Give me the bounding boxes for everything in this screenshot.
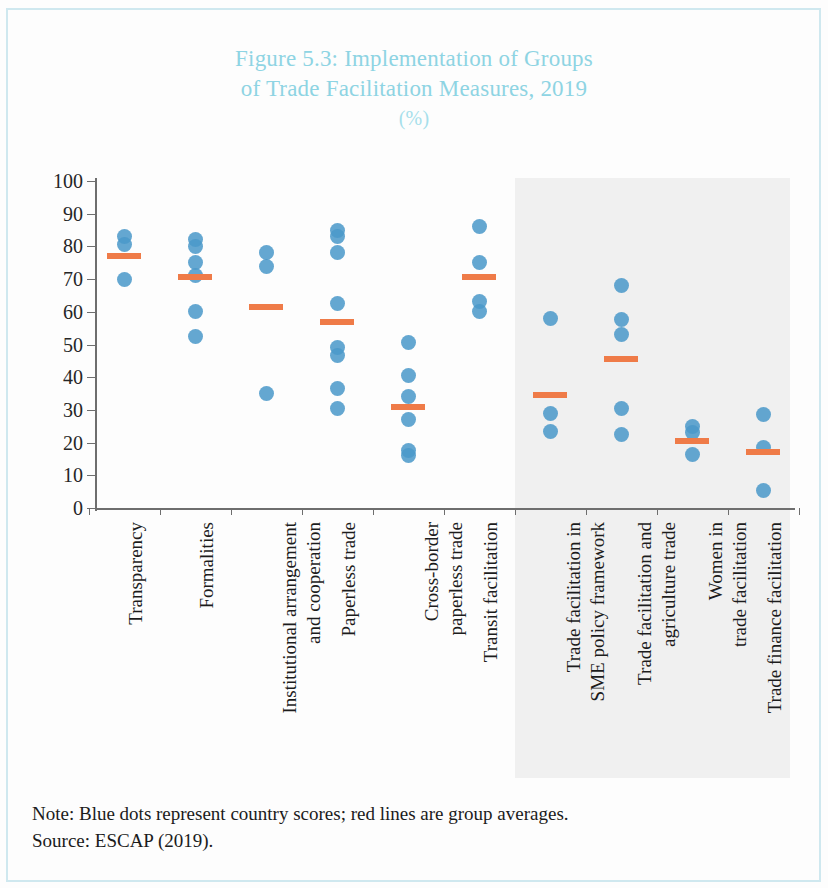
y-tick-40 (87, 377, 95, 378)
data-point (330, 401, 345, 416)
y-axis-label-70: 70 (63, 268, 83, 291)
x-axis-label-line1: Trade facilitation and (634, 522, 655, 685)
data-point (330, 381, 345, 396)
data-point (685, 447, 700, 462)
data-point (472, 304, 487, 319)
data-point (543, 406, 558, 421)
x-tick-separator (586, 508, 587, 515)
x-tick-separator (444, 508, 445, 515)
data-point (472, 255, 487, 270)
y-axis-label-50: 50 (63, 333, 83, 356)
x-axis-label-line1: Trade finance facilitation (764, 522, 785, 713)
data-point (330, 229, 345, 244)
x-axis-label-line1: Women in (705, 522, 726, 600)
y-axis-label-40: 40 (63, 366, 83, 389)
y-axis-label-60: 60 (63, 300, 83, 323)
y-tick-30 (87, 410, 95, 411)
figure-source: Source: ESCAP (2019). (32, 827, 569, 854)
data-point (614, 327, 629, 342)
x-tick-separator (728, 508, 729, 515)
x-axis-label-line2: SME policy framework (586, 522, 610, 822)
figure-title-line1: Figure 5.3: Implementation of Groups (235, 46, 593, 71)
group-average-line (178, 274, 212, 280)
group-average-line (391, 404, 425, 410)
x-axis-label-line1: Formalities (196, 522, 217, 609)
data-point (330, 245, 345, 260)
data-point (401, 389, 416, 404)
group-average-line (675, 438, 709, 444)
data-point (543, 311, 558, 326)
x-axis-label-line1: Trade facilitation in (563, 522, 584, 672)
x-axis-label-5: Cross-borderpaperless trade (420, 522, 468, 822)
x-axis-label-6: Transit facilitation (479, 522, 503, 822)
y-axis-label-90: 90 (63, 202, 83, 225)
x-axis-label-3: Institutional arrangementand cooperation (278, 522, 326, 822)
figure-title: Figure 5.3: Implementation of Groups of … (0, 44, 828, 132)
data-point (472, 219, 487, 234)
data-point (401, 448, 416, 463)
y-axis-label-20: 20 (63, 431, 83, 454)
x-axis-label-line2: and cooperation (302, 522, 326, 822)
data-point (188, 329, 203, 344)
x-tick-separator (373, 508, 374, 515)
x-axis-label-line1: Transit facilitation (480, 522, 501, 662)
group-average-line (604, 356, 638, 362)
x-axis-label-4: Paperless trade (337, 522, 361, 822)
y-axis-label-30: 30 (63, 398, 83, 421)
y-axis-line (95, 178, 97, 511)
x-tick-separator (799, 508, 800, 515)
x-axis-label-2: Formalities (195, 522, 219, 822)
x-axis-label-line2: agriculture trade (657, 522, 681, 822)
x-axis-line (95, 508, 795, 510)
x-axis-label-line1: Cross-border (421, 522, 442, 621)
scatter-plot: 0102030405060708090100 TransparencyForma… (95, 181, 795, 508)
data-point (401, 368, 416, 383)
group-average-line (249, 304, 283, 310)
x-axis-label-8: Trade facilitation andagriculture trade (633, 522, 681, 822)
data-point (614, 401, 629, 416)
x-tick-separator (160, 508, 161, 515)
y-tick-90 (87, 214, 95, 215)
x-tick-separator (657, 508, 658, 515)
data-point (543, 424, 558, 439)
x-axis-label-line1: Transparency (125, 522, 146, 625)
data-point (330, 348, 345, 363)
data-point (188, 239, 203, 254)
group-average-line (320, 319, 354, 325)
data-point (330, 296, 345, 311)
group-average-line (462, 274, 496, 280)
x-axis-label-line2: paperless trade (444, 522, 468, 822)
figure-title-unit: (%) (0, 104, 828, 132)
x-tick-separator (231, 508, 232, 515)
figure-title-line2: of Trade Facilitation Measures, 2019 (241, 76, 587, 101)
y-axis-label-100: 100 (53, 170, 83, 193)
y-tick-20 (87, 443, 95, 444)
x-axis-label-9: Women intrade facilitation (704, 522, 752, 822)
data-point (117, 272, 132, 287)
x-axis-label-10: Trade finance facilitation (763, 522, 787, 822)
data-point (756, 483, 771, 498)
x-axis-label-line1: Paperless trade (338, 522, 359, 636)
group-average-line (533, 392, 567, 398)
x-tick-separator (302, 508, 303, 515)
data-point (117, 237, 132, 252)
data-point (401, 335, 416, 350)
y-axis-label-10: 10 (63, 464, 83, 487)
data-point (614, 278, 629, 293)
x-tick-separator (89, 508, 90, 515)
y-tick-10 (87, 475, 95, 476)
data-point (756, 407, 771, 422)
y-tick-80 (87, 246, 95, 247)
y-tick-60 (87, 312, 95, 313)
figure-page: Figure 5.3: Implementation of Groups of … (0, 0, 828, 888)
y-tick-70 (87, 279, 95, 280)
x-axis-label-7: Trade facilitation inSME policy framewor… (562, 522, 610, 822)
group-average-line (746, 449, 780, 455)
x-tick-separator (515, 508, 516, 515)
data-point (188, 304, 203, 319)
y-axis-label-0: 0 (73, 497, 83, 520)
data-point (259, 386, 274, 401)
y-tick-100 (87, 181, 95, 182)
data-point (614, 427, 629, 442)
x-axis-label-line1: Institutional arrangement (279, 522, 300, 714)
